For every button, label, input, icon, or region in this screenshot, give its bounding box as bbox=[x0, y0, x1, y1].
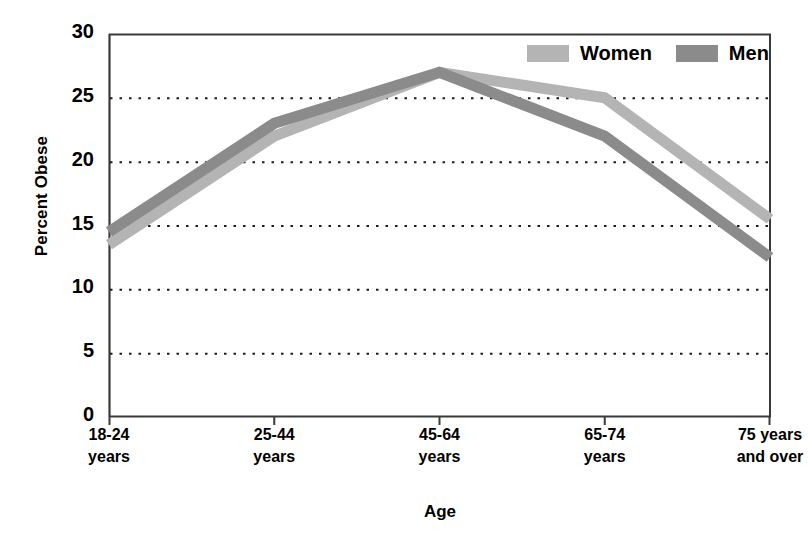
y-tick-label-20: 20 bbox=[50, 148, 94, 171]
legend-swatch-women bbox=[527, 45, 569, 62]
y-tick-label-0: 0 bbox=[50, 403, 94, 426]
legend-entry-men[interactable]: Men bbox=[676, 42, 769, 65]
x-tick-label-line1: 18-24 bbox=[34, 424, 184, 446]
x-tick-label-line1: 65-74 bbox=[530, 424, 680, 446]
y-tick-label-25: 25 bbox=[50, 84, 94, 107]
x-tick-label-1: 25-44years bbox=[199, 424, 349, 468]
x-tick-label-line2: years bbox=[34, 446, 184, 468]
x-tick-label-0: 18-24years bbox=[34, 424, 184, 468]
x-tick-label-line1: 75 years bbox=[695, 424, 808, 446]
legend: WomenMen bbox=[527, 42, 769, 65]
y-tick-label-5: 5 bbox=[50, 339, 94, 362]
x-tick-label-line1: 25-44 bbox=[199, 424, 349, 446]
y-tick-label-30: 30 bbox=[50, 20, 94, 43]
x-tick-label-line2: years bbox=[199, 446, 349, 468]
y-tick-label-15: 15 bbox=[50, 212, 94, 235]
x-tick-label-line2: years bbox=[365, 446, 515, 468]
y-axis-title: Percent Obese bbox=[32, 106, 52, 286]
obesity-by-age-line-chart: Percent Obese 051015202530 18-24years25-… bbox=[0, 0, 808, 545]
y-tick-label-10: 10 bbox=[50, 275, 94, 298]
x-tick-label-4: 75 yearsand over bbox=[695, 424, 808, 468]
x-tick-label-line2: and over bbox=[695, 446, 808, 468]
x-tick-label-3: 65-74years bbox=[530, 424, 680, 468]
legend-entry-women[interactable]: Women bbox=[527, 42, 652, 65]
legend-swatch-men bbox=[676, 45, 718, 62]
x-tick-label-line2: years bbox=[530, 446, 680, 468]
x-axis-title: Age bbox=[390, 502, 490, 522]
legend-label-men: Men bbox=[729, 42, 769, 65]
x-tick-label-line1: 45-64 bbox=[365, 424, 515, 446]
legend-label-women: Women bbox=[580, 42, 652, 65]
x-tick-label-2: 45-64years bbox=[365, 424, 515, 468]
